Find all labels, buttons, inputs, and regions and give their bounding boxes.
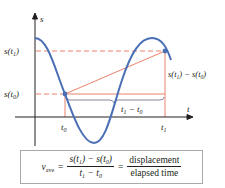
equals-sign-2: = [118,162,123,172]
word-ratio: displacement elapsed time [127,156,181,179]
x-tick-t1: t1 [161,122,167,133]
position-time-graph: s t s(t1) s(t0) t0 t1 s(t1) − s(t0) t1 −… [0,0,225,150]
x-axis-label: t [187,104,190,114]
secant-line [65,51,165,94]
x-axis-arrow-icon [187,115,193,120]
equals-sign: = [58,162,63,172]
formula-lhs: vave [42,162,55,173]
difference-quotient: s(t1) − s(t0) t1 − t0 [67,155,114,179]
y-axis-arrow-icon [33,13,38,19]
point-t0 [63,92,68,97]
ave-subscript: ave [46,167,54,173]
y-tick-s-t1: s(t1) [4,46,19,57]
displacement-text: displacement [127,156,181,168]
guide-lines [36,51,165,117]
horizontal-difference-label: t1 − t0 [121,104,143,115]
quotient-denominator: t1 − t0 [79,167,101,179]
vertical-difference-label: s(t1) − s(t0) [168,69,206,80]
position-curve [35,38,171,143]
quotient-numerator: s(t1) − s(t0) [67,155,114,167]
point-t1 [163,49,168,54]
y-tick-s-t0: s(t0) [4,89,19,100]
elapsed-time-text: elapsed time [131,167,179,179]
average-velocity-formula-box: vave = s(t1) − s(t0) t1 − t0 = displacem… [20,150,203,184]
y-axis-label: s [40,14,44,24]
x-tick-t0: t0 [61,122,67,133]
